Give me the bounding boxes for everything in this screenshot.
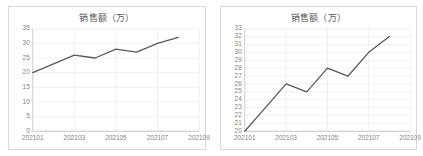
svg-text:202103: 202103: [275, 134, 297, 141]
svg-text:202101: 202101: [234, 134, 256, 141]
right-chart-plot: 2021222324252627282930313233202101202103…: [221, 7, 416, 149]
svg-text:5: 5: [26, 112, 30, 119]
svg-text:26: 26: [235, 80, 243, 87]
svg-text:25: 25: [23, 54, 31, 61]
left-chart-panel[interactable]: 销售额（万） 051015202530352021012021032021052…: [0, 0, 212, 156]
data-series-line: [33, 37, 179, 72]
svg-text:22: 22: [235, 111, 243, 118]
svg-text:27: 27: [235, 72, 243, 79]
svg-text:20: 20: [23, 68, 31, 75]
svg-text:202107: 202107: [358, 134, 380, 141]
right-chart-frame[interactable]: 销售额（万） 202122232425262728293031323320210…: [220, 6, 417, 150]
right-chart-panel[interactable]: 销售额（万） 202122232425262728293031323320210…: [212, 0, 423, 156]
svg-text:202105: 202105: [317, 134, 339, 141]
svg-text:21: 21: [235, 119, 243, 126]
svg-text:0: 0: [26, 127, 30, 134]
svg-text:20: 20: [235, 127, 243, 134]
svg-text:202109: 202109: [399, 134, 421, 141]
left-chart-plot: 0510152025303520210120210320210520210720…: [9, 7, 205, 149]
svg-text:30: 30: [23, 39, 31, 46]
svg-text:202103: 202103: [64, 134, 86, 141]
svg-text:30: 30: [235, 48, 243, 55]
svg-text:10: 10: [23, 98, 31, 105]
svg-text:202105: 202105: [105, 134, 127, 141]
svg-text:35: 35: [23, 24, 31, 31]
svg-text:15: 15: [23, 83, 31, 90]
svg-text:24: 24: [235, 95, 243, 102]
svg-text:29: 29: [235, 56, 243, 63]
svg-text:23: 23: [235, 103, 243, 110]
svg-text:28: 28: [235, 64, 243, 71]
svg-text:25: 25: [235, 88, 243, 95]
worksheet-canvas: 销售额（万） 051015202530352021012021032021052…: [0, 0, 423, 156]
svg-text:202107: 202107: [147, 134, 169, 141]
left-chart-frame[interactable]: 销售额（万） 051015202530352021012021032021052…: [8, 6, 206, 150]
svg-text:202101: 202101: [22, 134, 44, 141]
svg-text:31: 31: [235, 40, 243, 47]
svg-text:33: 33: [235, 24, 243, 31]
svg-text:202109: 202109: [188, 134, 210, 141]
svg-text:32: 32: [235, 32, 243, 39]
